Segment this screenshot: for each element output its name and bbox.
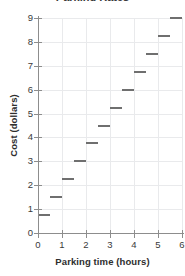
y-axis-tick xyxy=(34,42,42,43)
gridline-horizontal xyxy=(38,185,182,186)
x-axis-tick xyxy=(62,230,63,238)
y-axis-label: 1 xyxy=(11,204,33,214)
y-axis-tick xyxy=(34,137,42,138)
step-segment xyxy=(170,17,182,19)
step-segment xyxy=(50,196,62,198)
step-segment xyxy=(38,214,50,216)
gridline-vertical xyxy=(62,18,63,233)
x-axis-tick xyxy=(182,230,183,238)
y-axis-line xyxy=(38,16,39,235)
x-axis-tick xyxy=(134,230,135,238)
x-axis-tick xyxy=(38,230,39,238)
step-chart: Parking Rates Cost (dollars) Parking tim… xyxy=(0,0,185,276)
gridline-vertical xyxy=(134,18,135,233)
step-segment xyxy=(146,53,158,55)
y-axis-label: 8 xyxy=(11,37,33,47)
x-axis-label: 2 xyxy=(76,240,96,250)
gridline-horizontal xyxy=(38,66,182,67)
x-axis-tick xyxy=(86,230,87,238)
gridline-horizontal xyxy=(38,18,182,19)
gridline-horizontal xyxy=(38,90,182,91)
gridline-horizontal xyxy=(38,161,182,162)
y-axis-label: 2 xyxy=(11,180,33,190)
gridline-horizontal xyxy=(38,114,182,115)
y-axis-label: 3 xyxy=(11,156,33,166)
step-segment xyxy=(62,178,74,180)
x-axis-label: 5 xyxy=(148,240,168,250)
gridline-vertical xyxy=(86,18,87,233)
y-axis-label: 0 xyxy=(11,228,33,238)
step-segment xyxy=(74,160,86,162)
y-axis-tick xyxy=(34,185,42,186)
step-segment xyxy=(98,125,110,127)
step-segment xyxy=(158,35,170,37)
x-axis-label: 0 xyxy=(28,240,48,250)
y-axis-label: 4 xyxy=(11,132,33,142)
x-axis-tick xyxy=(158,230,159,238)
y-axis-tick xyxy=(34,90,42,91)
y-axis-tick xyxy=(34,18,42,19)
gridline-horizontal xyxy=(38,209,182,210)
y-axis-label: 6 xyxy=(11,85,33,95)
step-segment xyxy=(86,142,98,144)
chart-title: Parking Rates xyxy=(0,0,185,1)
x-axis-label: 1 xyxy=(52,240,72,250)
gridline-vertical xyxy=(110,18,111,233)
gridline-vertical xyxy=(158,18,159,233)
x-axis-tick xyxy=(110,230,111,238)
x-axis-label: 3 xyxy=(100,240,120,250)
y-axis-title: Cost (dollars) xyxy=(8,51,19,201)
x-axis-label: 4 xyxy=(124,240,144,250)
step-segment xyxy=(134,71,146,73)
step-segment xyxy=(122,89,134,91)
y-axis-tick xyxy=(34,66,42,67)
x-axis-label: 6 xyxy=(172,240,185,250)
y-axis-tick xyxy=(34,209,42,210)
y-axis-label: 9 xyxy=(11,13,33,23)
plot-area xyxy=(38,18,182,233)
gridline-horizontal xyxy=(38,42,182,43)
y-axis-tick xyxy=(34,114,42,115)
y-axis-label: 5 xyxy=(11,109,33,119)
x-axis-title: Parking time (hours) xyxy=(20,256,185,267)
gridline-horizontal xyxy=(38,137,182,138)
y-axis-label: 7 xyxy=(11,61,33,71)
gridline-vertical xyxy=(182,18,183,233)
step-segment xyxy=(110,107,122,109)
y-axis-tick xyxy=(34,161,42,162)
